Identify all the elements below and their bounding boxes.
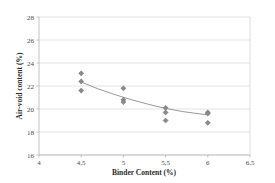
x-tick-label-6,5: 6,5	[246, 159, 255, 167]
trend-line-path	[81, 82, 208, 115]
y-tick-label-22: 22	[27, 83, 35, 91]
data-point-marker	[163, 118, 168, 123]
y-axis-ticks: 16182022242628	[27, 14, 39, 160]
x-tick-label-5: 5	[122, 159, 126, 167]
gridlines	[39, 17, 250, 155]
y-tick-label-24: 24	[27, 60, 35, 68]
y-tick-label-26: 26	[27, 37, 35, 45]
trend-line	[81, 82, 208, 115]
scatter-plot: 44,555,566,5 16182022242628 Binder Conte…	[0, 0, 275, 183]
x-axis-ticks: 44,555,566,5	[37, 155, 255, 167]
y-tick-label-28: 28	[27, 14, 35, 22]
x-tick-label-4: 4	[37, 159, 41, 167]
y-tick-label-18: 18	[27, 129, 35, 137]
x-axis-title: Binder Content (%)	[112, 168, 177, 177]
chart-container: 44,555,566,5 16182022242628 Binder Conte…	[0, 0, 275, 183]
x-tick-label-5,5: 5,5	[161, 159, 170, 167]
data-point-marker	[121, 86, 126, 91]
y-tick-label-16: 16	[27, 152, 35, 160]
data-points	[79, 71, 211, 126]
x-tick-label-4,5: 4,5	[77, 159, 86, 167]
data-point-marker	[205, 120, 210, 125]
data-point-marker	[79, 71, 84, 76]
data-point-marker	[79, 79, 84, 84]
y-tick-label-20: 20	[27, 106, 35, 114]
data-point-marker	[79, 88, 84, 93]
x-tick-label-6: 6	[206, 159, 210, 167]
data-point-marker	[163, 110, 168, 115]
y-axis-title: Air-void content (%)	[15, 52, 24, 119]
